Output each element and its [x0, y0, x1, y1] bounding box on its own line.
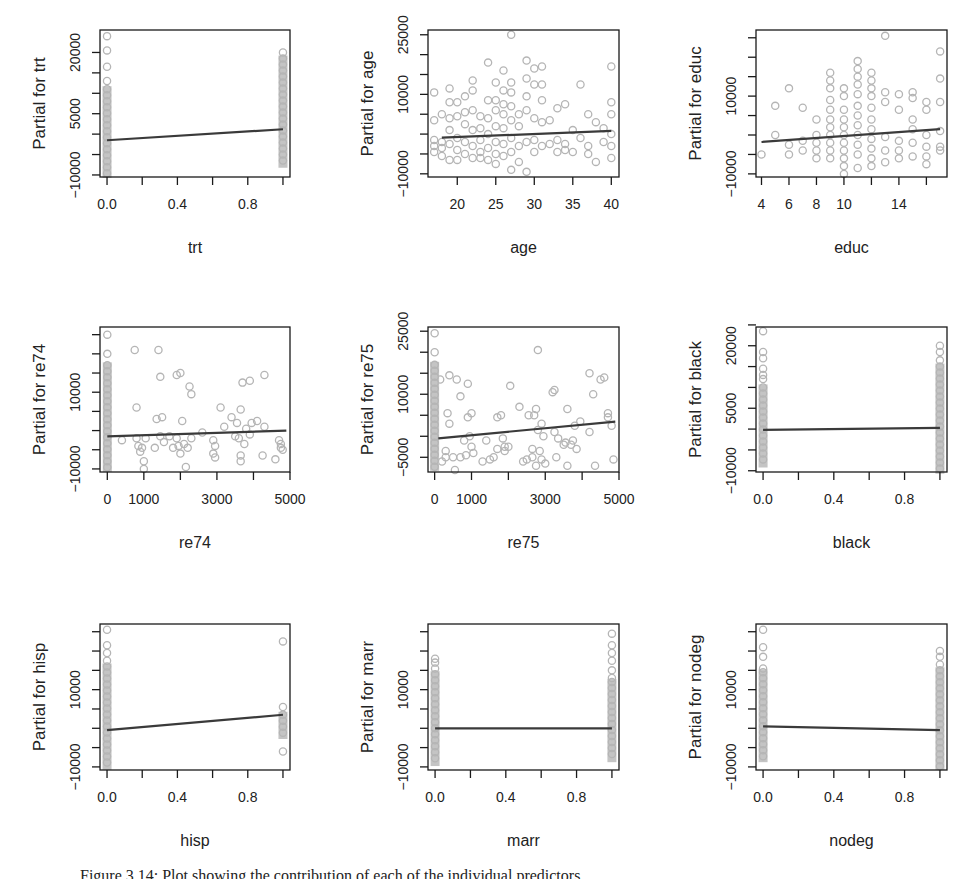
x-axis: 0.00.40.8 — [97, 770, 283, 805]
y-axis: −1000010000 — [395, 632, 428, 791]
x-tick-label: 25 — [488, 196, 504, 212]
fit-line — [107, 129, 283, 140]
x-tick-label: 35 — [565, 196, 581, 212]
data-points — [759, 328, 945, 474]
y-axis-label: Partial for nodeg — [686, 635, 705, 760]
data-points — [759, 626, 945, 770]
y-tick-label: 10000 — [395, 375, 411, 414]
fit-line — [107, 431, 286, 437]
fit-line — [761, 129, 940, 142]
panel-trt: 0.00.40.8trt−10000500020000Partial for t… — [30, 30, 290, 256]
y-tick-label: 25000 — [395, 15, 411, 54]
y-tick-label: 10000 — [723, 670, 739, 709]
panel-marr: 0.00.40.8marr−1000010000Partial for marr — [358, 624, 619, 849]
x-tick-label: 0.4 — [824, 789, 844, 805]
panel-age: 2025303540age−100001000025000Partial for… — [358, 15, 619, 256]
y-tick-label: 10000 — [67, 373, 83, 412]
x-tick-label: 20 — [449, 196, 465, 212]
data-points — [103, 331, 286, 472]
x-axis-label: re75 — [507, 534, 539, 551]
x-axis-label: hisp — [180, 832, 209, 849]
plot-frame — [100, 327, 290, 472]
y-axis: −1000010000 — [723, 632, 756, 791]
x-axis-label: trt — [188, 239, 203, 256]
y-tick-label: −10000 — [723, 447, 739, 494]
partial-residual-plots-figure: 0.00.40.8trt−10000500020000Partial for t… — [0, 0, 970, 879]
y-tick-label: −10000 — [67, 445, 83, 492]
x-tick-label: 0.0 — [97, 789, 117, 805]
panel-black: 0.00.40.8black−10000500020000Partial for… — [686, 325, 947, 551]
plot-frame — [100, 624, 290, 770]
x-axis: 0100030005000 — [103, 472, 305, 507]
fit-line — [107, 715, 283, 730]
y-tick-label: 10000 — [395, 75, 411, 114]
y-tick-label: −10000 — [395, 743, 411, 790]
y-tick-label: 20000 — [67, 33, 83, 72]
y-tick-label: 5000 — [723, 392, 739, 423]
x-tick-label: 3000 — [530, 491, 561, 507]
x-axis: 0100030005000 — [431, 472, 635, 507]
x-axis: 2025303540 — [449, 177, 619, 212]
x-tick-label: 0.0 — [753, 789, 773, 805]
plot-frame — [428, 30, 619, 177]
data-points — [431, 31, 615, 175]
figure-caption: Figure 3.14: Plot showing the contributi… — [80, 862, 960, 879]
y-tick-label: 25000 — [395, 312, 411, 351]
y-tick-label: −10000 — [723, 150, 739, 197]
x-tick-label: 0.4 — [496, 789, 516, 805]
x-tick-label: 4 — [758, 196, 766, 212]
panel-re75: 0100030005000re75−50001000025000Partial … — [358, 312, 635, 551]
y-axis-label: Partial for re75 — [358, 344, 377, 456]
y-tick-label: 20000 — [723, 326, 739, 365]
x-axis-label: re74 — [179, 534, 211, 551]
x-tick-label: 0.8 — [895, 789, 915, 805]
y-axis-label: Partial for educ — [686, 46, 705, 161]
plot-frame — [100, 30, 290, 177]
x-tick-label: 30 — [526, 196, 542, 212]
data-points — [758, 32, 944, 177]
x-tick-label: 0.0 — [753, 491, 773, 507]
x-tick-label: 0.8 — [238, 789, 258, 805]
x-axis: 0.00.40.8 — [97, 177, 283, 212]
x-tick-label: 0.8 — [895, 491, 915, 507]
plot-frame — [428, 327, 619, 472]
plot-frame — [756, 30, 947, 177]
x-tick-label: 0.8 — [238, 196, 258, 212]
y-tick-label: 10000 — [723, 76, 739, 115]
y-tick-label: 5000 — [67, 98, 83, 129]
data-points — [431, 630, 617, 766]
y-axis-label: Partial for trt — [30, 57, 49, 150]
y-axis-label: Partial for re74 — [30, 344, 49, 456]
x-axis: 0.00.40.8 — [753, 770, 940, 805]
data-points — [103, 626, 288, 770]
x-tick-label: 0.0 — [425, 789, 445, 805]
x-tick-label: 8 — [813, 196, 821, 212]
y-tick-label: −10000 — [67, 151, 83, 198]
panel-hisp: 0.00.40.8hisp−1000010000Partial for hisp — [30, 624, 290, 849]
y-axis: −1000010000 — [67, 632, 100, 791]
x-tick-label: 5000 — [603, 491, 634, 507]
y-tick-label: −5000 — [395, 437, 411, 477]
x-tick-label: 3000 — [201, 491, 232, 507]
y-tick-label: −10000 — [723, 743, 739, 790]
x-tick-label: 5000 — [274, 491, 305, 507]
x-tick-label: 10 — [836, 196, 852, 212]
panel-nodeg: 0.00.40.8nodeg−1000010000Partial for nod… — [686, 624, 947, 849]
y-axis: −100001000025000 — [395, 15, 428, 197]
y-axis: −50001000025000 — [395, 312, 428, 477]
panel-educ: 4681014educ−1000010000Partial for educ — [686, 30, 947, 256]
x-tick-label: 1000 — [456, 491, 487, 507]
y-tick-label: 10000 — [67, 670, 83, 709]
y-tick-label: −10000 — [395, 150, 411, 197]
x-axis-label: black — [833, 534, 871, 551]
x-tick-label: 0 — [431, 491, 439, 507]
panel-re74: 0100030005000re74−1000010000Partial for … — [30, 327, 306, 551]
x-axis-label: age — [510, 239, 537, 256]
y-axis-label: Partial for marr — [358, 640, 377, 753]
x-axis-label: marr — [507, 832, 541, 849]
y-axis-label: Partial for age — [358, 51, 377, 157]
x-axis: 0.00.40.8 — [425, 770, 612, 805]
x-tick-label: 6 — [785, 196, 793, 212]
y-axis: −10000500020000 — [67, 33, 100, 199]
x-axis: 4681014 — [758, 177, 927, 212]
